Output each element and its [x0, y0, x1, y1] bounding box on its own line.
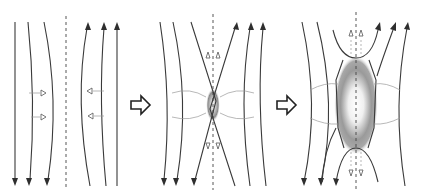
- arrowhead-up-icon: [233, 22, 239, 30]
- inflow-arrows: [29, 88, 104, 120]
- arrowhead-down-icon: [44, 178, 50, 186]
- arrowhead-down-icon: [318, 178, 324, 186]
- arrowhead-down-icon: [161, 178, 167, 186]
- arrowhead-up-icon: [260, 22, 266, 30]
- panel-stage-3: [301, 12, 410, 192]
- next-stage-arrow-icon: [277, 96, 296, 114]
- panel-stage-1: [12, 16, 120, 190]
- arrowhead-down-icon: [333, 178, 339, 186]
- field-line: [399, 28, 407, 186]
- field-line: [302, 22, 312, 182]
- arrowhead-down-icon: [301, 178, 307, 186]
- reconnected-loop-top: [333, 30, 378, 58]
- arrowhead-up-icon: [101, 22, 107, 30]
- arrowhead-up-icon: [390, 22, 396, 31]
- arrowhead-up-icon: [85, 22, 91, 30]
- field-line: [44, 22, 53, 180]
- arrowhead-down-icon: [191, 178, 197, 186]
- field-line: [160, 22, 167, 180]
- arrowhead-up-icon: [375, 22, 381, 31]
- arrowhead-up-icon: [248, 22, 254, 30]
- arrowhead-up-icon: [404, 22, 410, 30]
- panel-stage-2: [160, 14, 266, 190]
- field-line: [81, 28, 90, 186]
- reconnection-diagram: [0, 0, 427, 196]
- arrowhead-down-icon: [12, 178, 18, 186]
- field-line: [101, 28, 106, 186]
- arrowhead-down-icon: [173, 178, 179, 186]
- field-line: [260, 28, 266, 186]
- field-line: [377, 30, 393, 76]
- field-line: [244, 28, 250, 186]
- arrowhead-up-icon: [114, 22, 120, 30]
- arrowhead-down-icon: [26, 178, 32, 186]
- field-line: [173, 22, 183, 180]
- field-line: [317, 22, 329, 182]
- field-line: [28, 22, 33, 180]
- next-stage-arrow-icon: [131, 96, 150, 114]
